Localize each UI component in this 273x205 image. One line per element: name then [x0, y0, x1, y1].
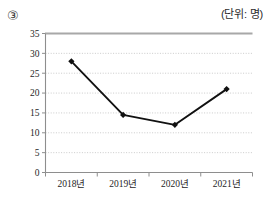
y-tick-label: 0: [35, 168, 40, 178]
x-tick-label: 2020년: [161, 179, 189, 189]
x-tick-label: 2018년: [57, 179, 85, 189]
y-tick-label: 15: [30, 108, 40, 118]
y-tick-label: 5: [35, 148, 40, 158]
gridlines-group: [46, 53, 253, 172]
y-tick-label: 20: [30, 88, 40, 98]
chart-figure: ③ (단위: 명) 05101520253035 2018년2019년2020년…: [0, 0, 273, 205]
x-tick-marks-group: [46, 173, 253, 177]
x-tick-label: 2021년: [213, 179, 241, 189]
y-tick-label: 30: [30, 49, 40, 59]
x-tick-label: 2019년: [109, 179, 137, 189]
y-tick-label: 25: [30, 69, 40, 79]
y-tick-labels-group: 05101520253035: [30, 29, 40, 178]
line-chart-plot: 05101520253035 2018년2019년2020년2021년: [0, 0, 273, 205]
y-tick-label: 10: [30, 128, 40, 138]
data-series-line: [71, 61, 226, 125]
chart-svg: 05101520253035 2018년2019년2020년2021년: [0, 0, 273, 205]
x-tick-labels-group: 2018년2019년2020년2021년: [57, 179, 240, 189]
y-tick-label: 35: [30, 29, 40, 39]
